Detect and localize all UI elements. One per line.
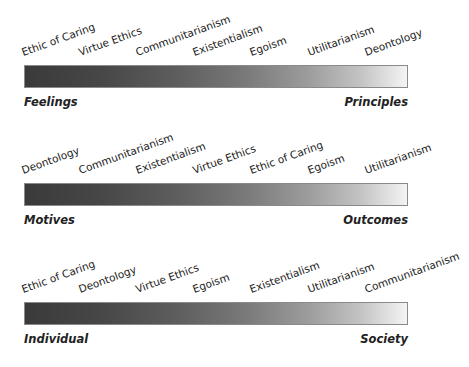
scale-left-label: Motives xyxy=(24,213,75,227)
scale-right-label: Principles xyxy=(345,95,408,109)
gradient-bar xyxy=(24,302,408,325)
scale-label: Egoism xyxy=(248,34,288,58)
scale-right-label: Society xyxy=(360,332,408,346)
scale-label: Utilitarianism xyxy=(363,141,433,176)
scale-label: Deontology xyxy=(20,144,81,176)
scale-label: Egoism xyxy=(306,152,346,176)
scale-label: Communitarianism xyxy=(134,13,232,58)
scale-label: Virtue Ethics xyxy=(134,261,200,295)
scale-label: Egoism xyxy=(191,271,231,295)
scale-right-label: Outcomes xyxy=(343,213,408,227)
gradient-bar xyxy=(24,183,408,206)
scale-left-label: Individual xyxy=(24,332,88,346)
scale-label: Communitarianism xyxy=(77,131,175,176)
scale-left-label: Feelings xyxy=(24,95,78,109)
scale-label: Communitarianism xyxy=(363,250,461,295)
gradient-bar xyxy=(24,65,408,88)
